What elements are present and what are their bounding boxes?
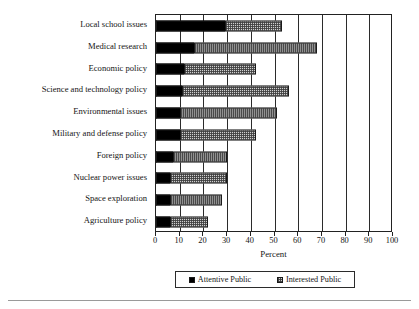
- bar-segment-attentive: [156, 173, 170, 184]
- bar-segment-interested: [180, 108, 277, 119]
- bar-stack: [156, 151, 227, 162]
- bar-segment-attentive: [156, 86, 182, 97]
- tick-label-20: 20: [198, 236, 206, 245]
- bar-stack: [156, 20, 282, 31]
- y-axis-label-1: Medical research: [88, 36, 147, 58]
- bar-segment-interested: [170, 217, 208, 228]
- bar-stack: [156, 42, 317, 53]
- bar-segment-interested: [170, 173, 227, 184]
- bar-segment-attentive: [156, 217, 170, 228]
- bar-row: [156, 146, 393, 168]
- x-axis-title: Percent: [155, 249, 392, 259]
- bar-rows: [156, 15, 391, 231]
- tick-label-50: 50: [269, 236, 277, 245]
- bar-segment-interested: [173, 151, 228, 162]
- bar-stack: [156, 86, 289, 97]
- bar-segment-attentive: [156, 64, 184, 75]
- bar-stack: [156, 195, 222, 206]
- bar-segment-interested: [184, 64, 255, 75]
- chart-figure: Local school issues Medical research Eco…: [0, 0, 419, 309]
- bar-row: [156, 37, 393, 59]
- legend-item-attentive: Attentive Public: [189, 275, 251, 284]
- legend-label-attentive: Attentive Public: [198, 275, 251, 284]
- y-axis-label-4: Environmental issues: [73, 101, 147, 123]
- tick-label-30: 30: [222, 236, 230, 245]
- bar-stack: [156, 64, 256, 75]
- bar-segment-interested: [182, 86, 289, 97]
- bar-row: [156, 189, 393, 211]
- tick-label-40: 40: [246, 236, 254, 245]
- tick-label-60: 60: [293, 236, 301, 245]
- hatched-square-icon: [277, 277, 283, 283]
- bar-segment-attentive: [156, 20, 225, 31]
- y-axis-label-7: Nuclear power issues: [73, 167, 147, 189]
- bar-row: [156, 59, 393, 81]
- bar-segment-interested: [180, 129, 256, 140]
- bar-row: [156, 80, 393, 102]
- y-axis-category-labels: Local school issues Medical research Eco…: [0, 14, 151, 232]
- chart-legend: Attentive Public Interested Public: [175, 271, 355, 288]
- tick-label-10: 10: [175, 236, 183, 245]
- bar-row: [156, 15, 393, 37]
- y-axis-label-0: Local school issues: [80, 14, 147, 36]
- bar-segment-interested: [225, 20, 282, 31]
- bar-row: [156, 124, 393, 146]
- bar-segment-attentive: [156, 195, 170, 206]
- legend-item-interested: Interested Public: [277, 275, 341, 284]
- tick-label-90: 90: [364, 236, 372, 245]
- bar-segment-attentive: [156, 129, 180, 140]
- tick-label-70: 70: [317, 236, 325, 245]
- tick-label-0: 0: [153, 236, 157, 245]
- y-axis-label-3: Science and technology policy: [42, 79, 147, 101]
- black-square-icon: [189, 277, 195, 283]
- bar-row: [156, 211, 393, 233]
- y-axis-label-9: Agriculture policy: [84, 210, 147, 232]
- y-axis-label-8: Space exploration: [85, 188, 147, 210]
- bar-segment-attentive: [156, 151, 173, 162]
- bar-segment-attentive: [156, 42, 194, 53]
- bar-row: [156, 168, 393, 190]
- y-axis-label-6: Foreign policy: [97, 145, 147, 167]
- bar-stack: [156, 173, 227, 184]
- y-axis-label-2: Economic policy: [89, 58, 147, 80]
- x-axis-ticks: 0102030405060708090100: [155, 232, 392, 248]
- bar-segment-interested: [194, 42, 317, 53]
- y-axis-label-5: Military and defense policy: [52, 123, 147, 145]
- bar-row: [156, 102, 393, 124]
- bar-stack: [156, 129, 256, 140]
- bar-segment-attentive: [156, 108, 180, 119]
- bar-stack: [156, 217, 208, 228]
- legend-label-interested: Interested Public: [286, 275, 341, 284]
- tick-label-100: 100: [386, 236, 399, 245]
- tick-label-80: 80: [340, 236, 348, 245]
- bar-segment-interested: [170, 195, 222, 206]
- plot-area: [155, 14, 392, 232]
- bar-stack: [156, 108, 277, 119]
- bottom-divider: [8, 300, 411, 301]
